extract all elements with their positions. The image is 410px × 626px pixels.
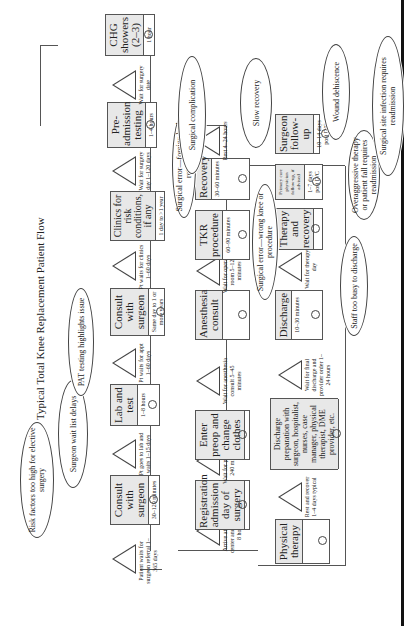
- step-chg-showers: CHG showers (2–3) 1 hour: [105, 14, 155, 56]
- step-consult-surgeon-2: Consult with surgeon Same day to 1 or mo…: [110, 288, 165, 336]
- step-therapy-recovery: Therapy and recovery: [275, 208, 323, 250]
- step-time: 1–8 hours: [140, 393, 146, 417]
- step-clinics-risk: Clinics for risk conditions, if any 1 da…: [110, 191, 165, 241]
- cloud-wound-dehiscence: Wound dehiscence: [322, 44, 350, 140]
- wait-label: Wait for surgery day 1–120 days: [138, 148, 152, 194]
- clock-icon: [238, 500, 247, 509]
- step-title: Discharge: [276, 291, 292, 339]
- cloud-surgeon-wait-list: Surgeon wait list delays: [58, 380, 88, 488]
- clock-icon: [144, 30, 153, 39]
- connector: [40, 46, 41, 126]
- step-title: Clinics for risk conditions, if any: [111, 192, 156, 240]
- step-consult-surgeon: Consult with surgeon 30–120 minutes: [110, 475, 160, 525]
- step-enter-preop: Enter preop and change clothes: [195, 410, 250, 460]
- step-title: Anesthesia consult: [196, 291, 223, 339]
- step-pre-admission-testing: Pre-admission testing 1–4 hours: [107, 102, 157, 148]
- step-title: Primary care physician follow-up, if adv…: [276, 165, 305, 199]
- wait-label: Pt goes to lab and waits 1–15 days: [138, 431, 152, 477]
- step-time: 1 day to >1 year: [158, 196, 164, 235]
- clock-icon: [238, 174, 247, 183]
- wait-triangle: [278, 360, 302, 390]
- wait-label: Wait for surgery date: [138, 62, 152, 108]
- step-time: 30–60 minutes: [214, 161, 220, 197]
- wait-triangle: [278, 252, 302, 282]
- step-lab-test: Lab and test 1–8 hours: [110, 384, 160, 426]
- step-discharge: Discharge 10–30 minutes: [275, 290, 323, 340]
- connector: [258, 565, 345, 566]
- clock-icon: [318, 537, 327, 546]
- step-title: TKR procedure: [196, 211, 223, 259]
- clock-icon: [332, 429, 341, 438]
- step-recovery: Recovery 30–60 minutes: [195, 158, 250, 200]
- step-registration: Registration admission day of surgery: [195, 480, 250, 530]
- wait-label: Patient waits for surgeon referral 1–365…: [138, 538, 159, 584]
- cloud-staff-busy: Staff too busy to discharge: [340, 236, 368, 336]
- step-discharge-preparation: Discharge preparation with surgeon, hosp…: [270, 398, 338, 470]
- wait-triangle: [112, 251, 136, 281]
- step-title: Discharge preparation with surgeon, hosp…: [271, 399, 339, 469]
- wait-label: Rest and recover 1–4 days typical: [304, 474, 318, 520]
- cloud-slow-recovery: Slow recovery: [240, 58, 272, 148]
- cloud-risk-factors: Risk factors too high for elective surge…: [20, 422, 54, 538]
- wait-label: Wait for therapy 1 day: [304, 244, 318, 290]
- wait-label: Wait for final discharge and provider or…: [304, 352, 332, 398]
- step-title: Consult with surgeon: [111, 476, 149, 524]
- clock-icon: [311, 310, 320, 319]
- wait-triangle: [278, 482, 302, 512]
- cloud-pat-testing: PAT testing highlights issue: [68, 288, 94, 396]
- wait-triangle: [112, 544, 136, 574]
- wait-triangle: [196, 366, 220, 396]
- wait-label: Wait for anesthesia consult 5–45 minutes: [222, 358, 243, 404]
- clock-icon: [146, 120, 155, 129]
- wait-triangle: [112, 348, 136, 378]
- clock-icon: [238, 310, 247, 319]
- step-title: Surgeon follow-up: [276, 115, 314, 153]
- flow-diagram: Typical Total Knee Replacement Patient F…: [0, 0, 410, 626]
- step-anesthesia-consult: Anesthesia consult: [195, 290, 250, 340]
- clock-icon: [238, 430, 247, 439]
- step-tkr-procedure: TKR procedure 60–90 minutes: [195, 210, 250, 260]
- step-title: Pre-admission testing: [108, 103, 146, 147]
- step-physical-therapy: Physical therapy: [275, 519, 330, 564]
- wait-triangle: [196, 256, 220, 286]
- step-title: CHG showers (2–3): [106, 15, 144, 55]
- step-title: Consult with surgeon: [111, 289, 149, 335]
- step-surgeon-follow-up: Surgeon follow-up 10–14 days post D/C: [275, 114, 320, 154]
- cloud-wrong-knee: Surgical error—wrong knee or procedure: [252, 184, 278, 300]
- wait-label: Pt waits for clinics 1–60 days: [138, 244, 152, 290]
- step-title: Lab and test: [111, 385, 138, 425]
- step-time: 10–30 minutes: [294, 297, 300, 333]
- cloud-surgical-site-infection: Surgical site infection requires readmis…: [372, 36, 404, 176]
- step-title: Therapy and recovery: [276, 209, 314, 249]
- wait-triangle: [112, 156, 136, 186]
- wait-label: Pt waits for appt 1–60 days: [138, 340, 152, 386]
- step-primary-care-follow-up: Primary care physician follow-up, if adv…: [275, 164, 323, 200]
- clock-icon: [311, 224, 320, 233]
- connector: [40, 45, 58, 46]
- step-time: 60–90 minutes: [225, 217, 231, 253]
- clock-icon: [148, 400, 157, 409]
- cloud-surgical-complication: Surgical complication: [178, 56, 206, 174]
- wait-label: Rest 4–24 hours: [222, 118, 229, 164]
- wait-triangle: [112, 70, 136, 100]
- clock-icon: [238, 230, 247, 239]
- diagram-title: Typical Total Knee Replacement Patient F…: [34, 217, 46, 420]
- clock-icon: [149, 495, 158, 504]
- step-title: Physical therapy: [276, 520, 303, 563]
- wait-triangle: [112, 439, 136, 469]
- clock-icon: [156, 307, 165, 316]
- connector: [178, 550, 258, 551]
- clock-icon: [312, 177, 321, 186]
- connector-row3: [345, 166, 346, 566]
